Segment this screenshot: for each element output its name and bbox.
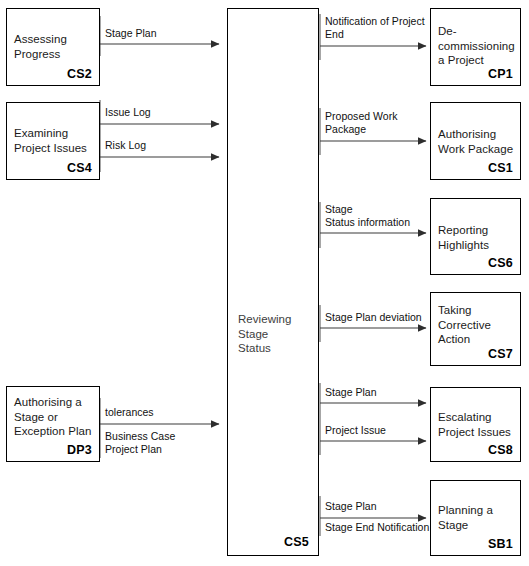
node-cs6-code: CS6	[488, 256, 513, 270]
node-sb1-title-line-1: Planning a	[438, 504, 493, 516]
node-cs5-hub[interactable]: Reviewing Stage Status CS5	[227, 8, 319, 556]
node-cs1-code: CS1	[488, 161, 513, 175]
label-stage-plan-cs2: Stage Plan	[105, 27, 157, 40]
label-stage-status-information-line-1: Stage	[325, 203, 353, 216]
node-cs2[interactable]: Assessing Progress CS2	[6, 8, 100, 86]
node-sb1-code: SB1	[488, 537, 513, 551]
label-stage-plan-sb1: Stage Plan	[325, 500, 377, 513]
node-cs1[interactable]: Authorising Work Package CS1	[430, 102, 521, 180]
node-sb1-title: Planning a Stage	[438, 503, 516, 532]
node-cp1[interactable]: De- commissioning a Project CP1	[430, 8, 521, 86]
label-project-issue: Project Issue	[325, 424, 386, 437]
node-cs5-title-line-2: Stage	[238, 328, 268, 340]
node-cs7-title: Taking Corrective Action	[438, 303, 516, 347]
node-cs6[interactable]: Reporting Highlights CS6	[430, 198, 521, 275]
node-cs5-title-line-3: Status	[238, 342, 271, 354]
node-cp1-title-line-1: De-	[438, 25, 457, 37]
node-cs8-title: Escalating Project Issues	[438, 410, 516, 439]
node-cs8-title-line-2: Project Issues	[438, 426, 511, 438]
label-proposed-work-package-line-1: Proposed Work	[325, 110, 397, 123]
node-sb1-title-line-2: Stage	[438, 519, 468, 531]
label-tolerances: tolerances	[105, 406, 154, 419]
node-cs4-code: CS4	[67, 161, 92, 175]
node-dp3[interactable]: Authorising a Stage or Exception Plan DP…	[6, 386, 100, 462]
node-cs2-title-line-2: Progress	[14, 48, 60, 60]
node-dp3-title: Authorising a Stage or Exception Plan	[14, 395, 95, 439]
label-proposed-work-package-line-2: Package	[325, 123, 366, 136]
node-cs7-title-line-1: Taking	[438, 304, 472, 316]
node-dp3-title-line-1: Authorising a	[14, 396, 82, 408]
node-sb1[interactable]: Planning a Stage SB1	[430, 480, 521, 556]
node-dp3-title-line-2: Stage or	[14, 411, 58, 423]
node-cs6-title-line-2: Highlights	[438, 239, 489, 251]
node-cs2-title-line-1: Assessing	[14, 33, 67, 45]
node-cp1-code: CP1	[488, 67, 513, 81]
node-cs1-title-line-2: Work Package	[438, 143, 513, 155]
node-cs8-title-line-1: Escalating	[438, 411, 492, 423]
node-cs4-title-line-1: Examining	[14, 127, 68, 139]
node-cs1-title: Authorising Work Package	[438, 127, 516, 156]
node-cs8-code: CS8	[488, 443, 513, 457]
node-cs2-code: CS2	[67, 67, 92, 81]
label-notification-project-end-line-2: End	[325, 28, 344, 41]
label-stage-end-notification: Stage End Notification	[325, 521, 429, 534]
label-risk-log: Risk Log	[105, 139, 146, 152]
node-cs7-title-line-2: Corrective	[438, 319, 491, 331]
node-cs7[interactable]: Taking Corrective Action CS7	[430, 292, 521, 366]
node-cp1-title-line-2: commissioning	[438, 40, 515, 52]
node-cs2-title: Assessing Progress	[14, 32, 95, 61]
label-issue-log: Issue Log	[105, 106, 151, 119]
node-cs7-title-line-3: Action	[438, 333, 470, 345]
label-project-plan: Project Plan	[105, 443, 162, 456]
node-cs4-title: Examining Project Issues	[14, 126, 95, 155]
node-dp3-code: DP3	[67, 443, 92, 457]
label-stage-plan-cs8: Stage Plan	[325, 386, 377, 399]
label-business-case: Business Case	[105, 430, 175, 443]
node-cs4[interactable]: Examining Project Issues CS4	[6, 102, 100, 180]
label-stage-status-information-line-2: Status information	[325, 216, 410, 229]
node-cs6-title-line-1: Reporting	[438, 224, 488, 236]
node-cs8[interactable]: Escalating Project Issues CS8	[430, 387, 521, 462]
node-cp1-title: De- commissioning a Project	[438, 24, 516, 68]
node-cs6-title: Reporting Highlights	[438, 223, 516, 252]
node-cs5-title: Reviewing Stage Status	[238, 312, 312, 356]
node-dp3-title-line-3: Exception Plan	[14, 425, 91, 437]
node-cs5-title-line-1: Reviewing	[238, 313, 292, 325]
node-cs1-title-line-1: Authorising	[438, 128, 496, 140]
node-cp1-title-line-3: a Project	[438, 54, 484, 66]
node-cs4-title-line-2: Project Issues	[14, 142, 87, 154]
label-stage-plan-deviation: Stage Plan deviation	[325, 311, 422, 324]
process-flow-diagram: Assessing Progress CS2 Examining Project…	[0, 0, 529, 566]
node-cs7-code: CS7	[488, 347, 513, 361]
label-notification-project-end-line-1: Notification of Project	[325, 15, 425, 28]
node-cs5-code: CS5	[284, 535, 309, 549]
